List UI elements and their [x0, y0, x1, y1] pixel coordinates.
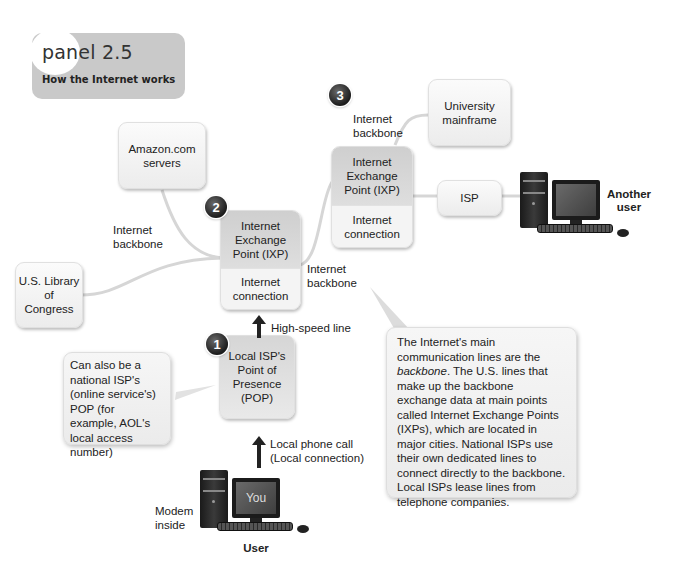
keyboard-icon	[537, 224, 613, 233]
node-isp-label: ISP	[460, 191, 479, 205]
node-isp: ISP	[437, 180, 502, 216]
panel-header: panel 2.5 How the Internet works	[32, 33, 185, 99]
mouse-icon	[297, 525, 309, 533]
ixp-3-exchange-label: Internet Exchange Point (IXP)	[334, 155, 410, 197]
node-library-of-congress: U.S. Library of Congress	[15, 262, 83, 328]
keyboard-icon	[217, 522, 293, 531]
panel-title: panel 2.5	[42, 41, 133, 63]
callout-pop-note-text: Can also be a national ISP's (online ser…	[70, 359, 156, 458]
node-pop-label: Local ISP's Point of Presence (POP)	[224, 349, 290, 405]
node-amazon-servers: Amazon.com servers	[118, 122, 206, 189]
node-amazon-label: Amazon.com servers	[125, 142, 199, 170]
node-university-label: University mainframe	[435, 99, 504, 127]
node-ixp-3: Internet Exchange Point (IXP) Internet c…	[331, 146, 413, 248]
ixp-2-exchange-label: Internet Exchange Point (IXP)	[223, 219, 298, 261]
node-local-pop: Local ISP's Point of Presence (POP)	[219, 335, 295, 419]
ixp-2-exchange: Internet Exchange Point (IXP)	[221, 211, 300, 268]
callout-backbone-italic: backbone	[397, 365, 447, 377]
ixp-3-connection: Internet connection	[332, 205, 412, 247]
label-backbone-mid: Internet backbone	[307, 262, 377, 290]
node-university-mainframe: University mainframe	[428, 79, 511, 146]
computer-tower-icon	[200, 470, 228, 528]
computer-tower-icon	[520, 172, 548, 228]
callout-backbone-note: The Internet's main communication lines …	[386, 327, 577, 498]
label-local-phone-call: Local phone call	[270, 437, 353, 451]
node-library-line2: of	[44, 288, 54, 302]
ixp-2-connection-label: Internet connection	[221, 275, 300, 303]
node-ixp-2: Internet Exchange Point (IXP) Internet c…	[220, 210, 301, 310]
high-speed-arrow	[255, 315, 263, 338]
local-call-arrow	[255, 436, 263, 468]
monitor-icon	[552, 180, 600, 220]
node-library-line1: U.S. Library	[19, 274, 80, 288]
monitor-icon: You	[232, 478, 280, 518]
ixp-2-connection: Internet connection	[221, 268, 300, 309]
ixp-3-exchange: Internet Exchange Point (IXP)	[332, 147, 412, 205]
label-user: User	[236, 542, 276, 555]
label-another-user: Another user	[604, 188, 654, 214]
mouse-icon	[617, 229, 629, 237]
monitor-screen: You	[236, 482, 276, 514]
callout-backbone-text-1: The Internet's main communication lines …	[397, 336, 540, 363]
panel-subtitle: How the Internet works	[42, 74, 175, 85]
callout-pop-note: Can also be a national ISP's (online ser…	[63, 352, 171, 445]
ixp-3-connection-label: Internet connection	[332, 213, 412, 241]
step-badge-1: 1	[206, 333, 228, 355]
step-badge-3: 3	[329, 84, 351, 106]
step-badge-2: 2	[205, 196, 227, 218]
label-high-speed-line: High-speed line	[271, 321, 351, 335]
node-library-line3: Congress	[24, 302, 73, 316]
label-backbone-left: Internet backbone	[113, 223, 183, 251]
label-backbone-top: Internet backbone	[353, 112, 423, 140]
monitor-screen-blank	[556, 184, 596, 216]
label-modem-inside: Modem inside	[155, 504, 200, 532]
label-local-connection: (Local connection)	[270, 451, 364, 465]
callout-backbone-text-2: . The U.S. lines that make up the backbo…	[397, 365, 565, 508]
user-computer: You	[200, 470, 320, 540]
